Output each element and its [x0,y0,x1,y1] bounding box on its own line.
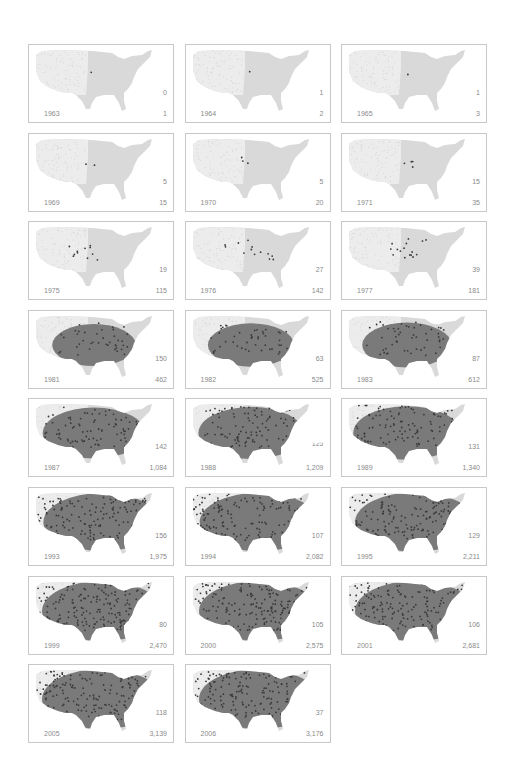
panel-total-count: 3 [476,110,480,117]
panel-total-count: 3,139 [149,730,167,737]
map-panel-1983: 1983 87 612 [341,310,487,389]
map-panel-1963: 1963 0 1 [28,44,174,123]
panel-year: 1981 [44,376,60,383]
panel-new-count: 156 [155,532,167,539]
panel-total-count: 2,681 [462,642,480,649]
us-map [345,401,469,469]
us-map [345,490,469,558]
us-map [32,401,156,469]
panel-total-count: 15 [159,199,167,206]
panel-year: 1977 [357,287,373,294]
panel-new-count: 129 [468,532,480,539]
panel-new-count: 5 [320,178,324,185]
map-panel-2001: 2001 106 2,681 [341,576,487,655]
us-map [189,224,313,292]
map-panel-1964: 1964 1 2 [185,44,331,123]
panel-new-count: 5 [163,178,167,185]
us-map [189,47,313,115]
panel-new-count: 1 [476,89,480,96]
panel-new-count: 150 [155,355,167,362]
panel-total-count: 612 [468,376,480,383]
map-panel-1993: 1993 156 1,975 [28,487,174,566]
panel-year: 1965 [357,110,373,117]
panel-new-count: 106 [468,621,480,628]
map-panel-1988: 1988 125 1,209 [185,398,331,477]
panel-total-count: 1,975 [149,553,167,560]
panel-new-count: 80 [159,621,167,628]
map-panel-1982: 1982 63 525 [185,310,331,389]
infected-dots [90,71,92,73]
panel-total-count: 462 [155,376,167,383]
panel-year: 1976 [201,287,217,294]
panel-total-count: 2 [320,110,324,117]
map-panel-1965: 1965 1 3 [341,44,487,123]
map-panel-1999: 1999 80 2,470 [28,576,174,655]
map-panel-1975: 1975 19 115 [28,221,174,300]
panel-total-count: 1 [163,110,167,117]
panel-year: 1982 [201,376,217,383]
panel-year: 1964 [201,110,217,117]
panel-year: 1993 [44,553,60,560]
map-panel-1987: 1987 142 1,084 [28,398,174,477]
map-panel-1981: 1981 150 462 [28,310,174,389]
panel-total-count: 1,084 [149,464,167,471]
us-map [189,313,313,381]
us-map [345,136,469,204]
panel-total-count: 1,209 [306,464,324,471]
panel-new-count: 125 [312,440,324,447]
panel-year: 2005 [44,730,60,737]
panel-year: 1999 [44,642,60,649]
panel-total-count: 115 [156,287,167,294]
panel-year: 1963 [44,110,60,117]
panel-new-count: 15 [472,178,480,185]
map-panel-2000: 2000 105 2,575 [185,576,331,655]
map-panel-1976: 1976 27 142 [185,221,331,300]
panel-new-count: 118 [156,709,167,716]
us-map [345,224,469,292]
panel-total-count: 3,176 [306,730,324,737]
map-panel-1995: 1995 129 2,211 [341,487,487,566]
us-map [32,667,156,735]
us-map [32,490,156,558]
panel-total-count: 2,082 [306,553,324,560]
map-grid: 1963 0 1 1964 1 2 1965 1 3 [28,44,488,744]
us-map [32,224,156,292]
panel-year: 1969 [44,199,60,206]
panel-year: 2006 [201,730,217,737]
us-map [189,490,313,558]
map-panel-1977: 1977 39 181 [341,221,487,300]
panel-total-count: 2,211 [463,553,480,560]
infected-dots [407,74,409,76]
panel-year: 1983 [357,376,373,383]
infected-dots [248,71,250,73]
panel-new-count: 105 [312,621,324,628]
us-map [189,667,313,735]
panel-total-count: 142 [312,287,324,294]
us-map [345,47,469,115]
panel-new-count: 142 [155,443,167,450]
panel-new-count: 107 [312,532,324,539]
panel-year: 1971 [357,199,373,206]
map-panel-1994: 1994 107 2,082 [185,487,331,566]
panel-total-count: 181 [468,287,480,294]
panel-new-count: 87 [472,355,480,362]
us-map [189,401,313,469]
map-panel-1970: 1970 5 20 [185,133,331,212]
panel-new-count: 19 [159,266,167,273]
panel-year: 1970 [201,199,217,206]
panel-year: 1975 [44,287,60,294]
us-map [189,136,313,204]
panel-new-count: 1 [320,89,324,96]
panel-new-count: 0 [163,89,167,96]
us-map [32,136,156,204]
us-map [32,47,156,115]
panel-new-count: 131 [468,443,480,450]
us-map [345,579,469,647]
panel-total-count: 525 [312,376,324,383]
panel-year: 1994 [201,553,217,560]
panel-total-count: 2,470 [149,642,167,649]
panel-new-count: 63 [316,355,324,362]
panel-new-count: 37 [316,709,324,716]
us-map [32,313,156,381]
map-panel-1971: 1971 15 35 [341,133,487,212]
